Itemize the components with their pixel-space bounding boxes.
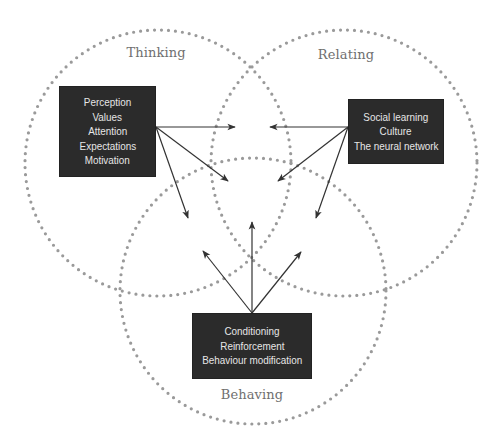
behaving-item-reinforcement: Reinforcement [220,339,284,354]
thinking-item-attention: Attention [88,124,127,139]
relating-box: Social learning Culture The neural netwo… [348,99,444,164]
behaving-arrows [203,222,301,313]
relating-item-neural-network: The neural network [354,139,439,154]
relating-item-social-learning: Social learning [364,110,429,125]
thinking-label: Thinking [126,45,185,60]
thinking-item-expectations: Expectations [79,139,136,154]
behaving-label: Behaving [221,387,283,402]
arrow-behaving-up-left [203,251,252,313]
arrow-relating-down [316,127,348,218]
arrow-thinking-diagonal [156,127,228,181]
arrow-behaving-up-right [252,252,301,313]
relating-arrows [270,127,348,218]
relating-item-culture: Culture [380,124,412,139]
arrow-relating-diagonal [278,127,348,181]
arrow-thinking-down [156,127,188,218]
thinking-item-motivation: Motivation [85,153,130,168]
venn-diagram [0,0,496,447]
thinking-box: Perception Values Attention Expectations… [59,86,156,177]
thinking-item-values: Values [93,110,123,125]
relating-label: Relating [318,47,374,62]
behaving-circle [120,158,386,424]
behaving-item-behaviour-modification: Behaviour modification [202,353,302,368]
behaving-item-conditioning: Conditioning [225,324,280,339]
thinking-item-perception: Perception [84,95,131,110]
behaving-box: Conditioning Reinforcement Behaviour mod… [192,313,312,379]
